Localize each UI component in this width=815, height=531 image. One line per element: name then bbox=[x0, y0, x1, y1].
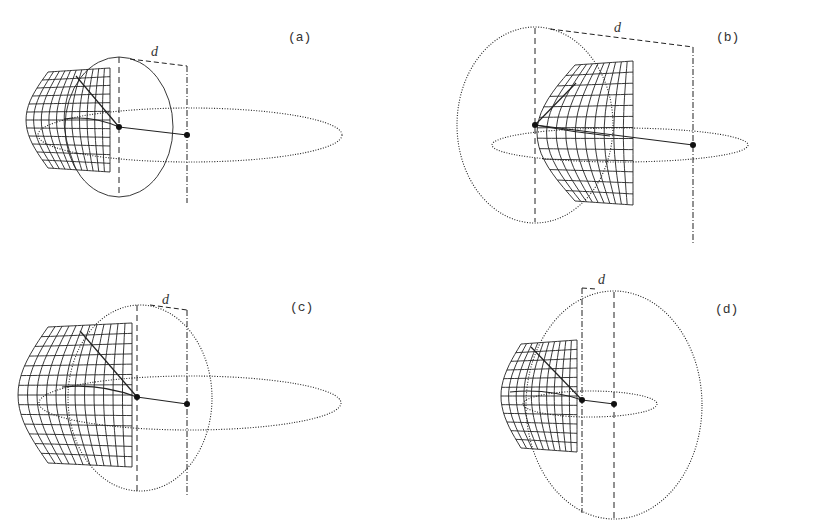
center-dot bbox=[116, 124, 122, 130]
distance-label-b: d bbox=[614, 20, 621, 36]
mesh-surface bbox=[18, 323, 132, 467]
distance-bracket bbox=[130, 59, 187, 66]
center-dot bbox=[532, 122, 538, 128]
center-to-focus-line bbox=[137, 397, 187, 404]
figure-canvas bbox=[0, 0, 815, 531]
distance-bracket bbox=[550, 29, 693, 47]
radius-spoke bbox=[535, 83, 576, 125]
focus-dot bbox=[611, 401, 617, 407]
focus-dot bbox=[184, 401, 190, 407]
panel-label-b: (b) bbox=[716, 30, 739, 45]
distance-bracket bbox=[582, 288, 596, 289]
panel-c bbox=[18, 305, 341, 497]
panel-b bbox=[457, 27, 748, 243]
center-to-focus-line bbox=[582, 400, 614, 404]
mesh-surface bbox=[501, 340, 577, 452]
panel-a bbox=[26, 57, 342, 203]
distance-label-d: d bbox=[598, 272, 605, 288]
orbit-ellipse bbox=[39, 376, 341, 430]
orbit-ellipse bbox=[492, 128, 748, 162]
orbit-ellipse bbox=[523, 391, 657, 417]
panel-label-c: (c) bbox=[290, 300, 313, 315]
panel-label-d: (d) bbox=[715, 302, 738, 317]
panel-d bbox=[501, 288, 702, 519]
center-to-focus-line bbox=[119, 127, 187, 135]
panel-label-a: (a) bbox=[288, 30, 311, 45]
radius-spoke bbox=[76, 76, 119, 127]
distance-label-a: d bbox=[151, 44, 158, 60]
focus-dot bbox=[184, 132, 190, 138]
focus-dot bbox=[690, 142, 696, 148]
center-dot bbox=[134, 394, 140, 400]
mid-spoke bbox=[510, 391, 582, 400]
center-dot bbox=[579, 397, 585, 403]
distance-label-c: d bbox=[162, 292, 169, 308]
